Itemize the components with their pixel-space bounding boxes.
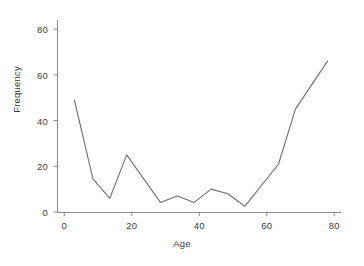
- y-tick-label: 80: [14, 24, 48, 35]
- x-tick-label: 40: [194, 220, 205, 231]
- x-tick-label: 0: [62, 220, 67, 231]
- y-tick-label: 20: [14, 161, 48, 172]
- x-axis-title: Age: [0, 238, 364, 249]
- line-chart: 020406080 020406080 Age Frequency: [0, 0, 364, 266]
- plot-area: [0, 0, 364, 266]
- x-tick-label: 80: [329, 220, 340, 231]
- axis-lines: [58, 20, 342, 213]
- x-tick-label: 20: [126, 220, 137, 231]
- y-axis-title: Frequency: [11, 38, 22, 142]
- y-tick-label: 0: [14, 207, 48, 218]
- y-tick-marks: [54, 29, 58, 212]
- x-tick-label: 60: [261, 220, 272, 231]
- data-series-line: [74, 61, 327, 206]
